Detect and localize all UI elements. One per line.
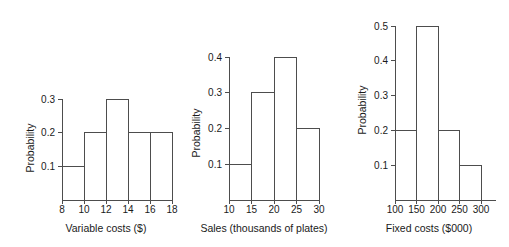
y-tick-label: 0.2 [374, 125, 388, 136]
y-ticks [225, 57, 229, 164]
y-tick-label: 0.1 [41, 161, 55, 172]
y-axis-title: Probability [190, 108, 202, 158]
bars-variable-costs [62, 99, 172, 200]
chart-panel-sales: 0.10.20.30.4 1015202530 Sales (thousands… [182, 0, 350, 247]
x-tick-label: 10 [78, 204, 90, 215]
y-tick-label: 0.3 [374, 90, 388, 101]
sales-histogram: 0.10.20.30.4 1015202530 Sales (thousands… [182, 0, 350, 247]
histogram-bar [417, 26, 439, 200]
y-tick-label: 0.3 [208, 87, 222, 98]
y-axis-title: Probability [356, 85, 368, 135]
histogram-bar [128, 133, 150, 200]
histogram-bar [460, 165, 482, 200]
x-tick-label: 30 [313, 204, 325, 215]
y-tick-label: 0.5 [374, 21, 388, 32]
x-tick-label: 12 [100, 204, 112, 215]
histogram-bar [252, 93, 275, 200]
y-tick-label: 0.2 [208, 123, 222, 134]
chart-panel-fixed-costs: 0.10.20.30.40.5 100150200250300 Fixed co… [350, 0, 509, 247]
x-tick-label: 300 [473, 204, 490, 215]
y-tick-label: 0.4 [374, 55, 388, 66]
plot-area-fixed-costs: 0.10.20.30.40.5 100150200250300 [374, 21, 496, 216]
fixed-costs-histogram: 0.10.20.30.40.5 100150200250300 Fixed co… [350, 0, 509, 247]
x-tick-label: 15 [246, 204, 258, 215]
y-tick-label: 0.1 [374, 160, 388, 171]
x-tick-labels: 81012141618 [59, 204, 178, 215]
histogram-bar [274, 57, 297, 200]
histogram-bar [84, 133, 106, 200]
x-tick-label: 100 [387, 204, 404, 215]
bars-sales [229, 57, 319, 200]
variable-costs-histogram: 0.10.20.3 81012141618 Variable costs ($)… [0, 0, 182, 247]
histogram-bar [106, 99, 128, 200]
y-tick-labels: 0.10.20.3 [41, 94, 55, 172]
x-tick-label: 8 [59, 204, 65, 215]
x-tick-label: 20 [268, 204, 280, 215]
x-tick-label: 25 [291, 204, 303, 215]
x-tick-label: 18 [166, 204, 178, 215]
x-tick-label: 150 [408, 204, 425, 215]
x-tick-label: 250 [451, 204, 468, 215]
histogram-bar [229, 164, 252, 200]
x-axis-title: Variable costs ($) [66, 222, 147, 234]
y-tick-label: 0.1 [208, 159, 222, 170]
histogram-bar [62, 166, 84, 200]
x-tick-label: 16 [144, 204, 156, 215]
histogram-bar [395, 130, 417, 200]
y-ticks [58, 99, 62, 166]
x-tick-label: 200 [430, 204, 447, 215]
x-axis-title: Fixed costs ($000) [386, 222, 472, 234]
y-tick-labels: 0.10.20.30.40.5 [374, 21, 388, 171]
y-tick-label: 0.3 [41, 94, 55, 105]
histogram-bar [150, 133, 172, 200]
plot-area-variable-costs: 0.10.20.3 81012141618 [41, 94, 178, 216]
y-tick-label: 0.4 [208, 52, 222, 63]
y-axis-title: Probability [24, 123, 36, 173]
y-tick-label: 0.2 [41, 127, 55, 138]
bars-fixed-costs [395, 26, 481, 200]
y-ticks [391, 26, 395, 165]
x-tick-label: 14 [122, 204, 134, 215]
plot-area-sales: 0.10.20.30.4 1015202530 [208, 52, 325, 216]
x-axis-title: Sales (thousands of plates) [200, 222, 327, 234]
chart-panel-variable-costs: 0.10.20.3 81012141618 Variable costs ($)… [0, 0, 182, 247]
x-tick-labels: 100150200250300 [387, 204, 490, 215]
x-tick-label: 10 [223, 204, 235, 215]
histogram-bar [438, 130, 460, 200]
histogram-figure: 0.10.20.3 81012141618 Variable costs ($)… [0, 0, 509, 247]
histogram-bar [297, 129, 320, 201]
x-tick-labels: 1015202530 [223, 204, 325, 215]
y-tick-labels: 0.10.20.30.4 [208, 52, 222, 170]
